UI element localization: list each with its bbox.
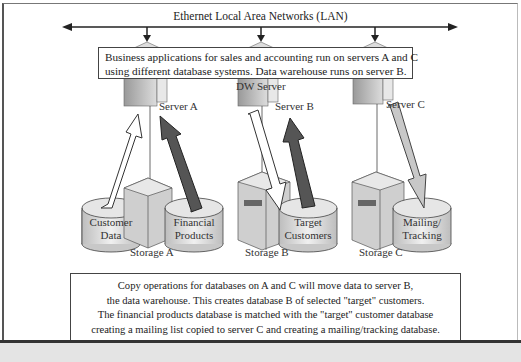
db-label-line: Products (167, 229, 221, 242)
bottom-note-box: Copy operations for databases on A and C… (70, 273, 461, 343)
db-label-line: Tracking (395, 229, 449, 242)
bottom-note-line: creating a mailing list copied to server… (71, 323, 460, 338)
top-note-box: Business applications for sales and acco… (98, 47, 413, 79)
bottom-note-line: Copy operations for databases on A and C… (71, 279, 460, 294)
lan-bus (62, 23, 458, 42)
server-b-label: Server B (275, 100, 314, 112)
db-mailing-tracking: Mailing/ Tracking (395, 216, 449, 242)
lan-title: Ethernet Local Area Networks (LAN) (0, 10, 521, 22)
db-label-line: Mailing/ (395, 216, 449, 229)
storage-a-label: Storage A (130, 246, 174, 258)
server-a-label: Server A (159, 100, 198, 112)
db-label-line: Financial (167, 216, 221, 229)
top-note-line: Business applications for sales and acco… (105, 50, 406, 64)
bottom-note-line: The financial products database is match… (71, 308, 460, 323)
db-financial-products: Financial Products (167, 216, 221, 242)
db-label-line: Target (281, 216, 335, 229)
bottom-bar (0, 340, 521, 362)
server-c-label: Server C (386, 98, 425, 110)
db-label-line: Customer (84, 216, 138, 229)
storage-b-label: Storage B (245, 246, 289, 258)
db-label-line: Customers (281, 229, 335, 242)
db-target-customers: Target Customers (281, 216, 335, 242)
dw-server-label: DW Server (236, 80, 286, 92)
top-note-line: using different database systems. Data w… (105, 64, 406, 78)
db-customer-data: Customer Data (84, 216, 138, 242)
bottom-note-line: the data warehouse. This creates databas… (71, 294, 460, 309)
db-label-line: Data (84, 229, 138, 242)
storage-c-label: Storage C (359, 246, 403, 258)
